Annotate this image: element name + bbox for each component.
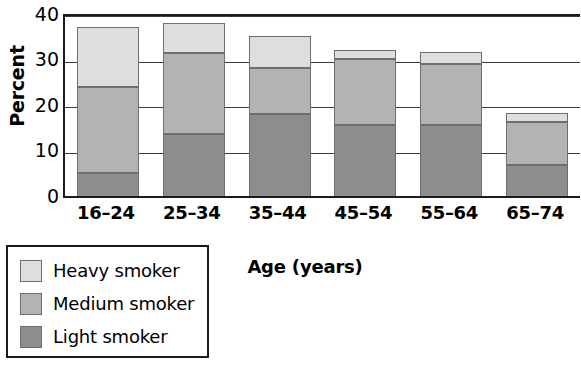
y-tick-0: 0 — [19, 187, 59, 206]
bar-segment-light-smoker — [420, 125, 482, 198]
legend: Heavy smokerMedium smokerLight smoker — [6, 245, 209, 358]
bar-segment-light-smoker — [334, 125, 396, 198]
bar-25-34 — [163, 23, 225, 198]
legend-swatch-icon — [20, 326, 42, 348]
legend-item-light-smoker: Light smoker — [20, 320, 207, 353]
legend-swatch-icon — [20, 293, 42, 315]
bar-55-64 — [420, 52, 482, 198]
y-tick-40: 40 — [19, 5, 59, 24]
bar-segment-light-smoker — [249, 114, 311, 198]
bar-segment-light-smoker — [163, 134, 225, 198]
gridline-30 — [65, 62, 580, 63]
bar-segment-light-smoker — [77, 173, 139, 198]
bar-segment-heavy-smoker — [77, 27, 139, 86]
legend-label: Light smoker — [53, 326, 167, 347]
bar-16-24 — [77, 27, 139, 198]
legend-swatch-icon — [20, 260, 42, 282]
legend-label: Heavy smoker — [53, 260, 179, 281]
bar-segment-heavy-smoker — [506, 113, 568, 122]
gridline-20 — [65, 107, 580, 108]
bar-segment-medium-smoker — [420, 64, 482, 125]
bar-segment-medium-smoker — [249, 68, 311, 114]
gridline-40 — [65, 16, 580, 17]
y-tick-10: 10 — [19, 141, 59, 160]
legend-item-medium-smoker: Medium smoker — [20, 287, 207, 320]
legend-item-heavy-smoker: Heavy smoker — [20, 254, 207, 287]
y-tick-30: 30 — [19, 50, 59, 69]
x-axis-title: Age (years) — [215, 256, 395, 277]
bar-segment-heavy-smoker — [420, 52, 482, 63]
gridline-10 — [65, 153, 580, 154]
bar-segment-heavy-smoker — [334, 50, 396, 59]
bar-segment-heavy-smoker — [249, 36, 311, 68]
bar-segment-medium-smoker — [334, 59, 396, 125]
plot-area — [63, 14, 580, 198]
bar-segment-medium-smoker — [77, 87, 139, 173]
bar-segment-light-smoker — [506, 165, 568, 198]
bar-segment-medium-smoker — [163, 53, 225, 134]
bar-segment-medium-smoker — [506, 122, 568, 165]
x-axis-line — [63, 196, 580, 198]
y-axis-tick-labels: 40 30 20 10 0 — [14, 0, 59, 210]
bar-45-54 — [334, 50, 396, 198]
bar-35-44 — [249, 36, 311, 198]
bar-65-74 — [506, 113, 568, 198]
y-tick-20: 20 — [19, 96, 59, 115]
legend-label: Medium smoker — [53, 293, 194, 314]
bar-segment-heavy-smoker — [163, 23, 225, 53]
x-tick-65-74: 65–74 — [485, 202, 581, 223]
